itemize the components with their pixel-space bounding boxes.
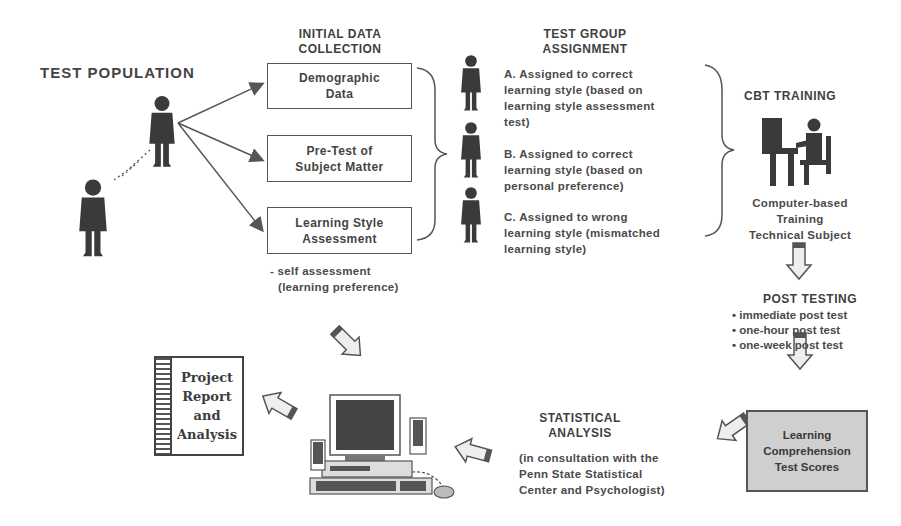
box-line: Demographic — [299, 70, 380, 86]
text-line: test) — [504, 114, 704, 130]
box-line: Data — [299, 86, 380, 102]
initial-data-title: INITIAL DATA COLLECTION — [270, 27, 410, 57]
box-line: Subject Matter — [295, 159, 383, 175]
statistical-analysis-title: STATISTICAL ANALYSIS — [520, 411, 640, 441]
post-test-item: one-week post test — [732, 338, 847, 353]
text-line: learning style (based on — [504, 82, 704, 98]
computer-training-icon — [762, 118, 831, 186]
learning-style-box: Learning StyleAssessment — [267, 207, 412, 254]
group-assignment-title: TEST GROUP ASSIGNMENT — [520, 27, 650, 57]
note-line: (in consultation with the — [519, 450, 689, 466]
post-test-item: one-hour post test — [732, 323, 847, 338]
title-line: INITIAL DATA — [270, 27, 410, 42]
scores-line: Comprehension — [763, 443, 851, 459]
group-c-text: C. Assigned to wrong learning style (mis… — [504, 209, 704, 257]
text-line: learning style (based on — [504, 162, 704, 178]
book-spine — [156, 358, 172, 454]
caption-line: Computer-based — [730, 195, 870, 211]
text-line: personal preference) — [504, 178, 704, 194]
title-line: ANALYSIS — [520, 426, 640, 441]
text-line: learning style (mismatched — [504, 225, 704, 241]
post-testing-list: immediate post test one-hour post test o… — [732, 308, 847, 353]
text-line: C. Assigned to wrong — [504, 209, 704, 225]
test-population-title: TEST POPULATION — [40, 64, 195, 81]
test-scores-box: Learning Comprehension Test Scores — [746, 410, 868, 492]
post-testing-title: POST TESTING — [745, 292, 875, 307]
person-icon — [79, 179, 107, 256]
report-line: and — [177, 406, 237, 425]
demographic-data-box: DemographicData — [267, 63, 412, 109]
report-label: Project Report and Analysis — [174, 358, 240, 454]
scores-line: Test Scores — [763, 459, 851, 475]
group-b-text: B. Assigned to correct learning style (b… — [504, 146, 704, 194]
report-line: Project — [177, 368, 237, 387]
title-line: COLLECTION — [270, 42, 410, 57]
text-line: B. Assigned to correct — [504, 146, 704, 162]
title-line: ASSIGNMENT — [520, 42, 650, 57]
title-line: TEST GROUP — [520, 27, 650, 42]
caption-line: Training — [730, 211, 870, 227]
report-line: Report — [177, 387, 237, 406]
statistical-analysis-note: (in consultation with the Penn State Sta… — [519, 450, 689, 498]
box-line: Learning Style — [295, 215, 383, 231]
group-a-text: A. Assigned to correct learning style (b… — [504, 66, 704, 130]
desktop-computer-icon — [310, 395, 454, 498]
note-line: Center and Psychologist) — [519, 482, 689, 498]
person-icon — [149, 96, 174, 167]
scores-line: Learning — [763, 427, 851, 443]
note-line: Penn State Statistical — [519, 466, 689, 482]
caption-line: Technical Subject — [730, 227, 870, 243]
note-line: - self assessment — [270, 263, 399, 279]
box-line: Assessment — [295, 231, 383, 247]
box-line: Pre-Test of — [295, 143, 383, 159]
cbt-caption: Computer-based Training Technical Subjec… — [730, 195, 870, 243]
text-line: learning style) — [504, 241, 704, 257]
post-test-item: immediate post test — [732, 308, 847, 323]
note-line: (learning preference) — [270, 279, 399, 295]
pretest-box: Pre-Test ofSubject Matter — [267, 135, 412, 182]
cbt-training-title: CBT TRAINING — [735, 89, 845, 104]
report-line: Analysis — [177, 425, 237, 444]
title-line: STATISTICAL — [520, 411, 640, 426]
text-line: A. Assigned to correct — [504, 66, 704, 82]
self-assessment-note: - self assessment (learning preference) — [270, 263, 399, 295]
text-line: learning style assessment — [504, 98, 704, 114]
project-report-book: Project Report and Analysis — [154, 356, 244, 456]
